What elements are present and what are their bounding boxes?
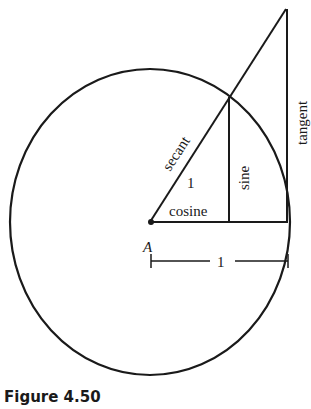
- cosine-label: cosine: [169, 203, 208, 219]
- figure-caption: Figure 4.50: [4, 388, 101, 406]
- radius-label: 1: [187, 175, 195, 191]
- tangent-label: tangent: [294, 100, 310, 145]
- unit-measure-label: 1: [217, 254, 225, 270]
- center-label: A: [142, 239, 153, 255]
- secant-line: [150, 9, 286, 222]
- unit-circle-diagram: 1 secant 1 cosine sine tangent A Figure …: [0, 0, 311, 409]
- sine-label: sine: [236, 165, 252, 190]
- center-point: [148, 219, 154, 225]
- secant-label: secant: [159, 133, 193, 174]
